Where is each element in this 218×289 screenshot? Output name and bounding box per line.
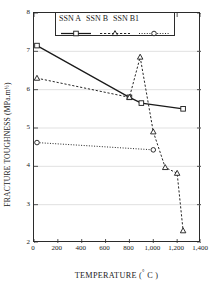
x-axis-title: TEMPERATURE (° C ) [33,269,200,280]
plot-canvas [34,13,201,243]
x-axis-title-main: TEMPERATURE ( [75,271,142,280]
open-square-marker [181,107,186,112]
open-circle-marker [35,140,40,145]
open-triangle-marker [137,54,142,59]
series-line [37,143,153,150]
series-line [37,46,183,109]
legend: SSN ASSN BSSN B1 [55,12,175,36]
open-square-marker [74,31,79,36]
x-tick-label: 1,400 [192,245,208,252]
x-tick-label: 600 [99,245,110,252]
x-tick-label: 200 [52,245,63,252]
open-triangle-marker [162,165,167,170]
legend-key-glyph [137,29,171,38]
legend-key-glyph [98,29,132,38]
open-triangle-marker [180,228,185,233]
legend-label: SSN B1 [113,14,139,23]
figure: FRACTURE TOUGHNESS (MPa.m½ ) 2345678 020… [0,0,218,289]
legend-key [137,24,171,33]
open-square-marker [139,101,144,106]
legend-key-glyph [59,29,93,38]
y-tick-label: 3 [4,200,30,207]
x-tick-label: 0 [31,245,35,252]
open-triangle-marker [151,129,156,134]
x-tick-label: 1,200 [168,245,184,252]
legend-label-row: SSN ASSN BSSN B1 [59,14,171,23]
y-tick-label: 6 [4,85,30,92]
x-tick-label: 400 [75,245,86,252]
legend-key-row [59,24,171,33]
series-ssn-a [35,43,186,111]
open-triangle-marker [34,75,39,80]
legend-label: SSN B [86,14,108,23]
y-tick-label: 2 [4,239,30,246]
y-tick-label: 7 [4,47,30,54]
open-square-marker [35,43,40,48]
y-tick-label: 5 [4,124,30,131]
y-tick-label: 4 [4,162,30,169]
open-circle-marker [152,31,157,36]
legend-label: SSN A [59,14,81,23]
x-axis-title-tail: C ) [145,271,158,280]
y-axis-tick-labels: 2345678 [0,12,30,242]
plot-area [33,12,200,242]
series-ssn-b [34,54,186,233]
y-tick-label: 8 [4,9,30,16]
legend-key [59,24,93,33]
x-tick-label: 1,000 [144,245,160,252]
series-ssn-b1 [35,140,156,152]
legend-key [98,24,132,33]
x-axis-tick-labels: 02004006008001,0001,2001,400 [33,245,200,257]
x-tick-label: 800 [123,245,134,252]
open-circle-marker [151,148,156,153]
